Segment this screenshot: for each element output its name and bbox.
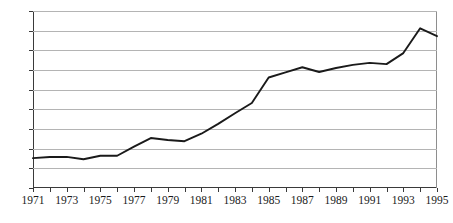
series-line-layer — [0, 0, 453, 223]
caption-fragment — [6, 215, 306, 223]
data-series-line — [33, 28, 437, 159]
line-chart: 0102030405060708090 19711973197519771979… — [0, 0, 453, 223]
